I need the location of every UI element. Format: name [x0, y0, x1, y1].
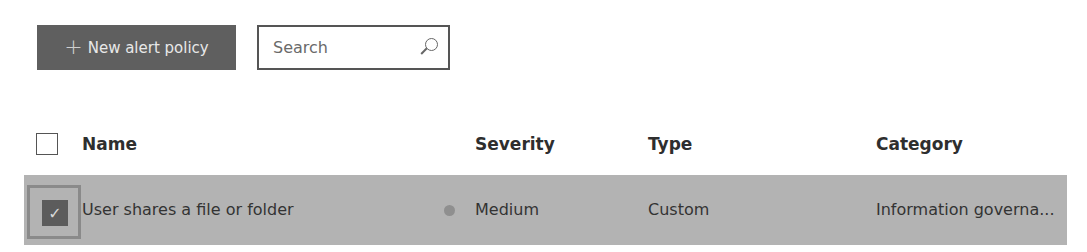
column-header-severity[interactable]: Severity [475, 134, 555, 154]
search-input[interactable] [271, 37, 418, 58]
table-row[interactable]: ✓ User shares a file or folder Medium Cu… [24, 175, 1067, 245]
row-checkbox-focus[interactable]: ✓ [27, 185, 81, 239]
new-alert-policy-button[interactable]: + New alert policy [37, 25, 236, 70]
column-header-category[interactable]: Category [876, 134, 963, 154]
search-box[interactable] [257, 25, 450, 70]
row-category: Information governa... [876, 200, 1054, 219]
severity-dot-icon [444, 205, 455, 216]
row-severity: Medium [475, 200, 539, 219]
toolbar: + New alert policy [37, 25, 236, 70]
row-checkbox[interactable]: ✓ [42, 200, 68, 226]
row-type: Custom [648, 200, 709, 219]
table-header: Name Severity Type Category [24, 120, 1067, 170]
row-name[interactable]: User shares a file or folder [82, 200, 294, 219]
checkmark-icon: ✓ [48, 204, 61, 223]
column-header-name[interactable]: Name [82, 134, 137, 154]
search-icon-handle [420, 48, 427, 55]
column-header-type[interactable]: Type [648, 134, 692, 154]
new-alert-policy-label: New alert policy [88, 39, 209, 57]
select-all-checkbox[interactable] [36, 133, 58, 155]
plus-icon: + [64, 36, 82, 58]
search-icon[interactable] [418, 38, 438, 58]
